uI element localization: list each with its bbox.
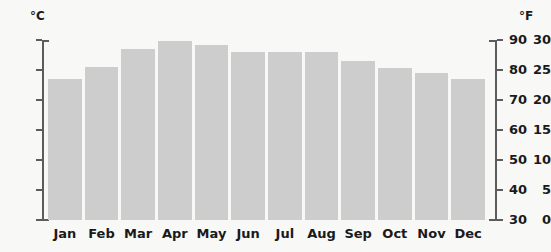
right-tick-mark bbox=[497, 189, 503, 191]
bar-aug bbox=[305, 52, 339, 220]
month-label-aug: Aug bbox=[305, 227, 339, 240]
month-label-jun: Jun bbox=[231, 227, 265, 240]
bar-jul bbox=[268, 52, 302, 220]
left-tick-mark bbox=[36, 39, 42, 41]
right-axis-top-cap bbox=[489, 40, 496, 42]
left-axis-line bbox=[42, 40, 44, 221]
right-tick-label: 60 bbox=[509, 123, 527, 136]
bar-nov bbox=[415, 73, 449, 220]
bar-mar bbox=[121, 49, 155, 220]
right-axis-bottom-cap bbox=[489, 219, 496, 221]
bar-oct bbox=[378, 68, 412, 220]
left-tick-mark bbox=[36, 219, 42, 221]
left-tick-mark bbox=[36, 159, 42, 161]
right-tick-mark bbox=[497, 159, 503, 161]
left-tick-mark bbox=[36, 99, 42, 101]
right-tick-label: 70 bbox=[509, 93, 527, 106]
month-label-jan: Jan bbox=[48, 227, 82, 240]
month-label-may: May bbox=[195, 227, 229, 240]
right-tick-mark bbox=[497, 129, 503, 131]
left-tick-mark bbox=[36, 69, 42, 71]
right-tick-label: 80 bbox=[509, 63, 527, 76]
bar-dec bbox=[451, 79, 485, 220]
left-tick-mark bbox=[36, 189, 42, 191]
celsius-unit-label: °C bbox=[30, 10, 45, 22]
month-label-oct: Oct bbox=[378, 227, 412, 240]
fahrenheit-unit-label: °F bbox=[519, 10, 533, 22]
month-label-mar: Mar bbox=[121, 227, 155, 240]
left-tick-mark bbox=[36, 129, 42, 131]
temperature-bar-chart: °C °F 302520151050 90807060504030 JanFeb… bbox=[0, 0, 551, 252]
month-label-sep: Sep bbox=[341, 227, 375, 240]
right-tick-label: 90 bbox=[509, 33, 527, 46]
right-tick-label: 40 bbox=[509, 183, 527, 196]
month-label-feb: Feb bbox=[85, 227, 119, 240]
bar-feb bbox=[85, 67, 119, 220]
bar-jan bbox=[48, 79, 82, 220]
bar-apr bbox=[158, 41, 192, 220]
bar-may bbox=[195, 45, 229, 220]
plot-area bbox=[48, 40, 488, 220]
right-tick-label: 50 bbox=[509, 153, 527, 166]
month-label-apr: Apr bbox=[158, 227, 192, 240]
month-label-dec: Dec bbox=[451, 227, 485, 240]
bar-sep bbox=[341, 61, 375, 220]
month-label-nov: Nov bbox=[415, 227, 449, 240]
month-label-jul: Jul bbox=[268, 227, 302, 240]
right-tick-mark bbox=[497, 39, 503, 41]
right-tick-label: 30 bbox=[509, 213, 527, 226]
right-tick-mark bbox=[497, 219, 503, 221]
bar-jun bbox=[231, 52, 265, 220]
right-tick-mark bbox=[497, 99, 503, 101]
right-tick-mark bbox=[497, 69, 503, 71]
